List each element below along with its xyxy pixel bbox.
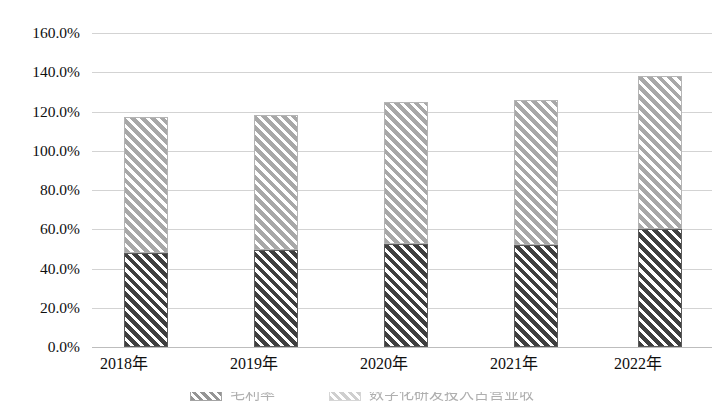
- xtick-label-2019: 2019年: [194, 356, 314, 372]
- legend-item-series-2: 数字化研发投入占营业收: [329, 392, 534, 402]
- bar-segment-lower: [638, 229, 682, 347]
- bar-segment-upper: [254, 115, 298, 249]
- ytick-label: 140.0%: [0, 65, 80, 81]
- legend-swatch-icon: [190, 392, 222, 401]
- ytick-label: 160.0%: [0, 25, 80, 41]
- xtick-label-2018: 2018年: [64, 356, 184, 372]
- bar-group: [384, 102, 428, 347]
- bar-segment-lower: [384, 244, 428, 347]
- bar-group: [254, 115, 298, 347]
- ytick-label: 60.0%: [0, 222, 80, 238]
- ytick-label: 80.0%: [0, 182, 80, 198]
- bar-segment-upper: [384, 102, 428, 244]
- legend-label: 毛利率: [230, 392, 275, 402]
- xtick-label-2022: 2022年: [578, 356, 698, 372]
- bar-segment-upper: [124, 117, 168, 252]
- bar-segment-upper: [638, 76, 682, 229]
- bars-layer: [92, 33, 712, 347]
- bar-group: [514, 100, 558, 347]
- legend-label: 数字化研发投入占营业收: [369, 392, 534, 402]
- stacked-bar-chart: 160.0% 140.0% 120.0% 100.0% 80.0% 60.0% …: [0, 0, 724, 404]
- legend-item-series-1: 毛利率: [190, 392, 275, 402]
- legend-swatch-icon: [329, 392, 361, 401]
- ytick-label: 20.0%: [0, 300, 80, 316]
- chart-legend: 毛利率 数字化研发投入占营业收: [0, 392, 724, 404]
- bar-segment-upper: [514, 100, 558, 245]
- xtick-label-2021: 2021年: [454, 356, 574, 372]
- plot-area: 160.0% 140.0% 120.0% 100.0% 80.0% 60.0% …: [92, 33, 712, 347]
- ytick-label: 0.0%: [0, 339, 80, 355]
- ytick-label: 100.0%: [0, 143, 80, 159]
- bar-segment-lower: [124, 253, 168, 347]
- ytick-label: 120.0%: [0, 104, 80, 120]
- bar-segment-lower: [254, 250, 298, 347]
- bar-group: [638, 76, 682, 347]
- ytick-label: 40.0%: [0, 261, 80, 277]
- xtick-label-2020: 2020年: [324, 356, 444, 372]
- bar-segment-lower: [514, 245, 558, 347]
- bar-group: [124, 117, 168, 347]
- axis-baseline: [92, 347, 712, 348]
